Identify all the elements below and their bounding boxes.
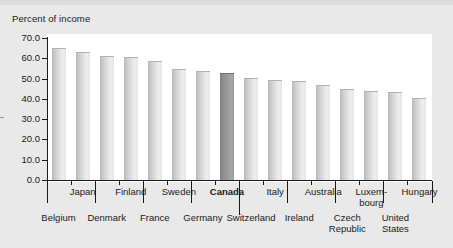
y-axis-tick-group: 70.060.050.040.030.020.010.00.0 [0, 0, 47, 248]
bar-japan [76, 52, 90, 180]
x-axis-label-lower: France [140, 212, 170, 223]
bar-canada [220, 73, 234, 181]
x-axis-tick-mark [71, 181, 72, 185]
x-axis-label-upper: Japan [70, 186, 96, 197]
x-axis-label-line: Italy [266, 186, 283, 197]
x-axis-label-lower: Germany [183, 212, 222, 223]
y-axis-tick-label: 30.0 [22, 113, 41, 124]
x-axis-label-line: Czech [334, 212, 361, 223]
x-axis-label-upper: Italy [266, 186, 283, 197]
x-axis-label-upper: Australia [305, 186, 342, 197]
x-axis-label-line: Ireland [285, 212, 314, 223]
bar-denmark [100, 56, 114, 180]
plot-area [48, 38, 431, 180]
x-axis-label-line: Finland [115, 186, 146, 197]
y-axis-tick-label: 0.0 [27, 174, 40, 185]
x-axis-tick-mark [359, 181, 360, 185]
x-axis-label-lower: Belgium [41, 212, 75, 223]
bar-chart-figure: Percent of income 70.060.050.040.030.020… [0, 0, 453, 248]
x-axis-label-line: Canada [210, 186, 244, 197]
x-axis-label-lower: Switzerland [226, 212, 275, 223]
y-axis-tick-label: 70.0 [22, 32, 41, 43]
x-axis-label-line: Germany [183, 212, 222, 223]
y-axis-tick-label: 10.0 [22, 154, 41, 165]
x-axis-label-line: Hungary [402, 186, 438, 197]
x-axis-label-line: bourg [356, 197, 388, 208]
x-axis-label-upper: Luxem-bourg [356, 186, 388, 208]
x-axis-tick-mark [263, 181, 264, 185]
x-axis-label-lower: Ireland [285, 212, 314, 223]
x-axis-tick-mark [407, 181, 408, 185]
x-axis-label-upper: Finland [115, 186, 146, 197]
x-label-separator-edge [47, 181, 48, 203]
x-axis-label-line: Japan [70, 186, 96, 197]
bar-france [148, 61, 162, 180]
x-axis-label-line: Denmark [87, 212, 126, 223]
bar-germany [196, 71, 210, 180]
x-axis-tick-mark [311, 181, 312, 185]
y-axis-tick-label: 40.0 [22, 93, 41, 104]
bar-luxembourg [364, 91, 378, 180]
x-axis-tick-mark [119, 181, 120, 185]
x-axis-label-upper: Hungary [402, 186, 438, 197]
x-label-separator [287, 181, 288, 203]
x-axis-label-line: Republic [329, 223, 366, 234]
x-axis-label-line: United [382, 212, 409, 223]
x-axis-label-lower: CzechRepublic [329, 212, 366, 234]
x-axis-label-line: States [382, 223, 409, 234]
bar-united-states [388, 92, 402, 180]
bar-hungary [412, 98, 426, 180]
y-axis-tick-label: 60.0 [22, 52, 41, 63]
top-border-strip [0, 0, 453, 5]
y-axis-tick-label: 50.0 [22, 73, 41, 84]
x-axis-label-line: Australia [305, 186, 342, 197]
y-axis-tick-label: 20.0 [22, 133, 41, 144]
bar-australia [316, 85, 330, 180]
x-axis-label-lower: UnitedStates [382, 212, 409, 234]
bar-ireland [292, 81, 306, 180]
bar-finland [124, 57, 138, 180]
x-axis-label-line: Belgium [41, 212, 75, 223]
x-axis-label-line: France [140, 212, 170, 223]
bar-italy [268, 80, 282, 180]
bar-switzerland [244, 78, 258, 180]
x-axis-label-upper: Canada [210, 186, 244, 197]
bar-czech-republic [340, 89, 354, 180]
bar-sweden [172, 69, 186, 180]
x-axis-label-lower: Denmark [87, 212, 126, 223]
x-axis-label-line: Sweden [162, 186, 196, 197]
bar-belgium [52, 48, 66, 180]
x-axis-tick-mark [215, 181, 216, 185]
x-axis-label-line: Switzerland [226, 212, 275, 223]
x-axis-label-line: Luxem- [356, 186, 388, 197]
x-axis-label-upper: Sweden [162, 186, 196, 197]
x-axis-tick-mark [167, 181, 168, 185]
